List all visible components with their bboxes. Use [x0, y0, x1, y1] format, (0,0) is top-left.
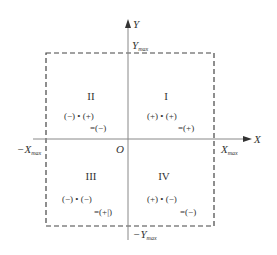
quadrant-numeral: I — [164, 90, 168, 102]
quadrant-product: (+) • (−) — [147, 194, 177, 204]
origin-label: O — [116, 143, 124, 155]
quadrant-result: =(−) — [90, 123, 106, 133]
x-axis-arrow-icon — [243, 136, 252, 142]
quadrant-result: =(+|) — [94, 207, 112, 217]
x-axis-label: X — [253, 133, 262, 145]
quadrant-i: I (+) • (+) =(+) — [147, 90, 194, 133]
quadrant-product: (−) • (+) — [64, 111, 94, 121]
y-axis-arrow-icon — [125, 19, 131, 28]
quadrant-numeral: II — [87, 90, 95, 102]
neg-x-max-label: −Xmax — [17, 143, 41, 156]
x-max-label: Xmax — [220, 143, 238, 156]
quadrant-iv: IV (+) • (−) =(−) — [147, 170, 196, 217]
quadrant-result: =(−) — [180, 207, 196, 217]
quadrant-product: (+) • (+) — [147, 111, 177, 121]
quadrant-result: =(+) — [178, 123, 194, 133]
quadrant-sign-diagram: Y X O Ymax −Ymax Xmax −Xmax II (−) • (+)… — [0, 0, 277, 255]
quadrant-product: (−) • (−) — [62, 194, 92, 204]
quadrant-numeral: III — [86, 170, 97, 182]
y-axis-label: Y — [133, 18, 141, 30]
quadrant-numeral: IV — [158, 170, 170, 182]
y-max-label: Ymax — [132, 39, 148, 52]
quadrant-iii: III (−) • (−) =(+|) — [62, 170, 112, 217]
quadrant-ii: II (−) • (+) =(−) — [64, 90, 106, 133]
neg-y-max-label: −Ymax — [133, 228, 157, 241]
